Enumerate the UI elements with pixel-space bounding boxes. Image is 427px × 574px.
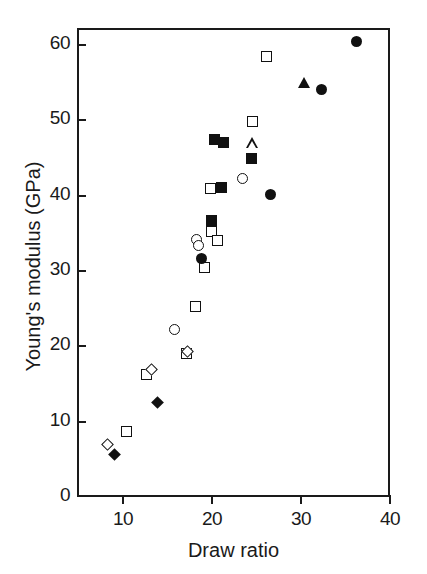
square-open-glyph (121, 426, 132, 437)
triangle-open-inner (248, 141, 256, 148)
data-points-layer (0, 0, 427, 574)
data-point-circle-open (193, 240, 204, 251)
diamond-open-glyph (145, 363, 158, 376)
circle-open-glyph (169, 324, 180, 335)
data-point-square-filled (206, 215, 217, 226)
diamond-filled-glyph (108, 448, 121, 461)
circle-filled-glyph (196, 253, 207, 264)
data-point-diamond-filled (153, 398, 162, 407)
data-point-triangle-open (246, 137, 258, 148)
data-point-triangle-filled (298, 77, 310, 88)
square-open-glyph (261, 51, 272, 62)
x-axis-label: Draw ratio (77, 539, 390, 562)
data-point-square-open (212, 235, 223, 246)
data-point-square-open (121, 426, 132, 437)
data-point-square-filled (218, 137, 229, 148)
square-filled-glyph (246, 153, 257, 164)
triangle-filled-glyph (298, 77, 310, 88)
data-point-circle-filled (351, 36, 362, 47)
square-filled-glyph (216, 182, 227, 193)
circle-open-glyph (193, 240, 204, 251)
diamond-open-glyph (182, 345, 195, 358)
data-point-square-filled (246, 153, 257, 164)
circle-filled-glyph (265, 189, 276, 200)
square-open-glyph (212, 235, 223, 246)
data-point-square-open (247, 116, 258, 127)
square-open-glyph (190, 301, 201, 312)
data-point-diamond-open (103, 440, 112, 449)
data-point-square-filled (216, 182, 227, 193)
data-point-square-open (190, 301, 201, 312)
circle-open-glyph (237, 173, 248, 184)
data-point-square-open (261, 51, 272, 62)
data-point-circle-open (237, 173, 248, 184)
data-point-diamond-open (147, 365, 156, 374)
data-point-diamond-open (183, 347, 192, 356)
y-axis-label: Young's modulus (GPa) (22, 137, 45, 397)
diamond-filled-glyph (151, 396, 164, 409)
data-point-square-open (205, 183, 216, 194)
square-open-glyph (205, 183, 216, 194)
square-filled-glyph (218, 137, 229, 148)
scatter-chart-figure: 0102030405060 10203040 Young's modulus (… (0, 0, 427, 574)
square-filled-glyph (206, 215, 217, 226)
circle-filled-glyph (316, 84, 327, 95)
data-point-circle-open (169, 324, 180, 335)
data-point-circle-filled (196, 253, 207, 264)
circle-filled-glyph (351, 36, 362, 47)
data-point-diamond-filled (110, 450, 119, 459)
square-open-glyph (247, 116, 258, 127)
data-point-circle-filled (265, 189, 276, 200)
data-point-circle-filled (316, 84, 327, 95)
